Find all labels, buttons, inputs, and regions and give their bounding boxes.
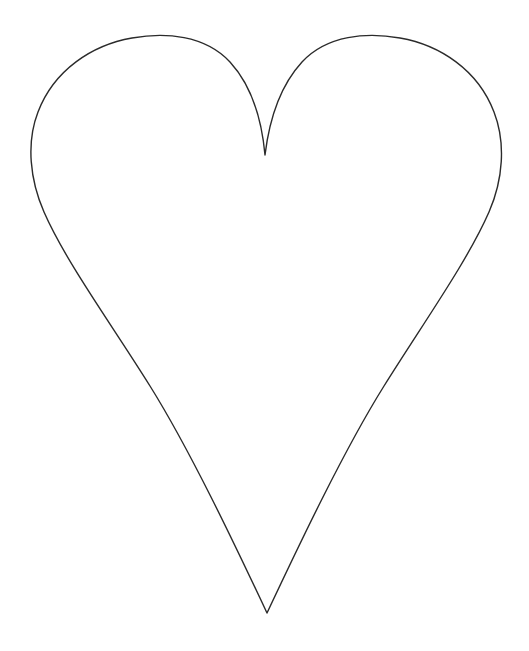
background-rect: [0, 0, 529, 651]
heart-illustration: Heart outline: [0, 0, 529, 651]
image-canvas: Heart outline: [0, 0, 529, 651]
